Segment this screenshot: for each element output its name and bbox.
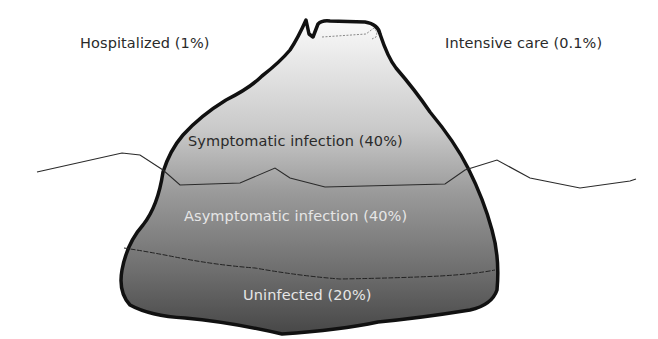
label-asymptomatic-infection: Asymptomatic infection (40%) <box>184 208 407 224</box>
label-uninfected: Uninfected (20%) <box>243 287 372 303</box>
label-intensive-care: Intensive care (0.1%) <box>445 35 602 51</box>
label-symptomatic-infection: Symptomatic infection (40%) <box>188 133 403 149</box>
iceberg-diagram: Hospitalized (1%) Intensive care (0.1%) … <box>0 0 658 339</box>
label-hospitalized: Hospitalized (1%) <box>80 35 210 51</box>
